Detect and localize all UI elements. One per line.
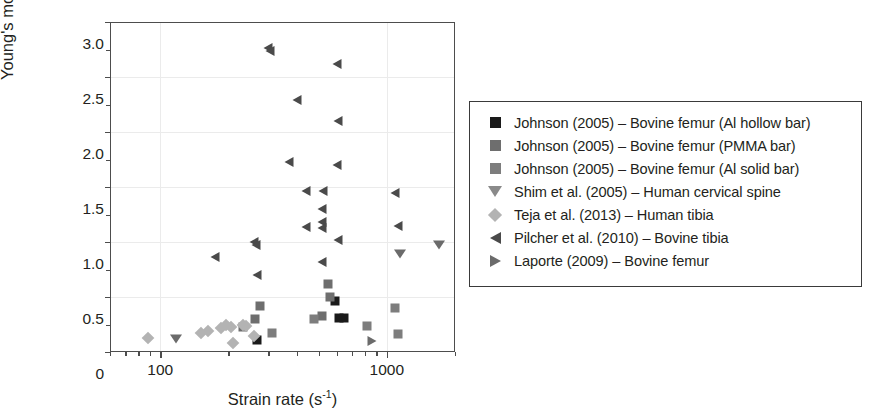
- legend-glyph: [490, 232, 501, 244]
- legend-marker-diamond-icon: [484, 210, 506, 220]
- legend-marker-square-icon: [484, 163, 506, 174]
- x-tick-minor: [228, 352, 229, 356]
- legend-label: Shim et al. (2005) – Human cervical spin…: [514, 184, 781, 200]
- y-tick-label: 3.0: [82, 35, 104, 53]
- legend-item[interactable]: Teja et al. (2013) – Human tibia: [470, 203, 861, 226]
- x-tick-minor: [150, 352, 151, 356]
- x-tick-minor: [319, 352, 320, 356]
- x-tick-minor: [365, 352, 366, 356]
- y-tick-label: 1.0: [82, 255, 104, 273]
- legend-label: Pilcher et al. (2010) – Bovine tibia: [514, 230, 729, 246]
- legend-label: Johnson (2005) – Bovine femur (Al hollow…: [514, 115, 810, 131]
- legend-marker-triangle-left-icon: [484, 232, 506, 244]
- x-axis-title-main: Strain rate (s: [228, 390, 322, 408]
- legend-glyph: [490, 117, 501, 128]
- x-tick-minor: [455, 352, 456, 356]
- x-axis-tick-labels: 1001000: [110, 22, 455, 352]
- x-axis-title: Strain rate (s-1): [110, 388, 455, 409]
- legend-glyph: [488, 186, 502, 197]
- legend-glyph: [490, 255, 501, 267]
- y-tick-label: 2.5: [82, 90, 104, 108]
- x-tick-minor: [110, 352, 111, 356]
- y-axis-tick-labels: 00.51.01.52.02.53.0: [60, 22, 104, 352]
- legend-glyph: [488, 207, 502, 221]
- x-tick-label: 100: [147, 361, 173, 379]
- y-tick-label: 2.0: [82, 145, 104, 163]
- x-tick-minor: [125, 352, 126, 356]
- x-tick-minor: [337, 352, 338, 356]
- x-tick-major: [387, 352, 388, 358]
- y-tick-label: 0.5: [82, 310, 104, 328]
- legend-label: Teja et al. (2013) – Human tibia: [514, 207, 714, 223]
- x-tick-label: 1000: [370, 361, 404, 379]
- legend-label: Johnson (2005) – Bovine femur (Al solid …: [514, 161, 799, 177]
- legend-marker-square-icon: [484, 117, 506, 128]
- x-tick-minor: [268, 352, 269, 356]
- legend-marker-square-icon: [484, 140, 506, 151]
- figure-scatter-plot: Young's modulus (GPa) 00.51.01.52.02.53.…: [0, 0, 881, 420]
- x-axis-title-tail: ): [332, 390, 338, 408]
- legend-item[interactable]: Johnson (2005) – Bovine femur (Al solid …: [470, 157, 861, 180]
- y-axis-title: Young's modulus (GPa): [0, 0, 17, 80]
- legend-glyph: [490, 163, 501, 174]
- x-tick-minor: [352, 352, 353, 356]
- legend-item[interactable]: Laporte (2009) – Bovine femur: [470, 249, 861, 272]
- legend-item[interactable]: Shim et al. (2005) – Human cervical spin…: [470, 180, 861, 203]
- legend-item[interactable]: Johnson (2005) – Bovine femur (PMMA bar): [470, 134, 861, 157]
- legend-label: Johnson (2005) – Bovine femur (PMMA bar): [514, 138, 796, 154]
- y-tick-label: 1.5: [82, 200, 104, 218]
- x-tick-minor: [376, 352, 377, 356]
- legend-label: Laporte (2009) – Bovine femur: [514, 253, 709, 269]
- x-tick-major: [160, 352, 161, 358]
- legend-marker-triangle-down-icon: [484, 186, 506, 197]
- legend-item[interactable]: Johnson (2005) – Bovine femur (Al hollow…: [470, 111, 861, 134]
- legend-item[interactable]: Pilcher et al. (2010) – Bovine tibia: [470, 226, 861, 249]
- x-tick-minor: [297, 352, 298, 356]
- y-tick-label: 0: [95, 365, 104, 383]
- legend-marker-triangle-right-icon: [484, 255, 506, 267]
- x-axis-title-exponent: -1: [322, 388, 331, 400]
- legend-glyph: [490, 140, 501, 151]
- legend-box: Johnson (2005) – Bovine femur (Al hollow…: [469, 101, 862, 287]
- x-tick-minor: [138, 352, 139, 356]
